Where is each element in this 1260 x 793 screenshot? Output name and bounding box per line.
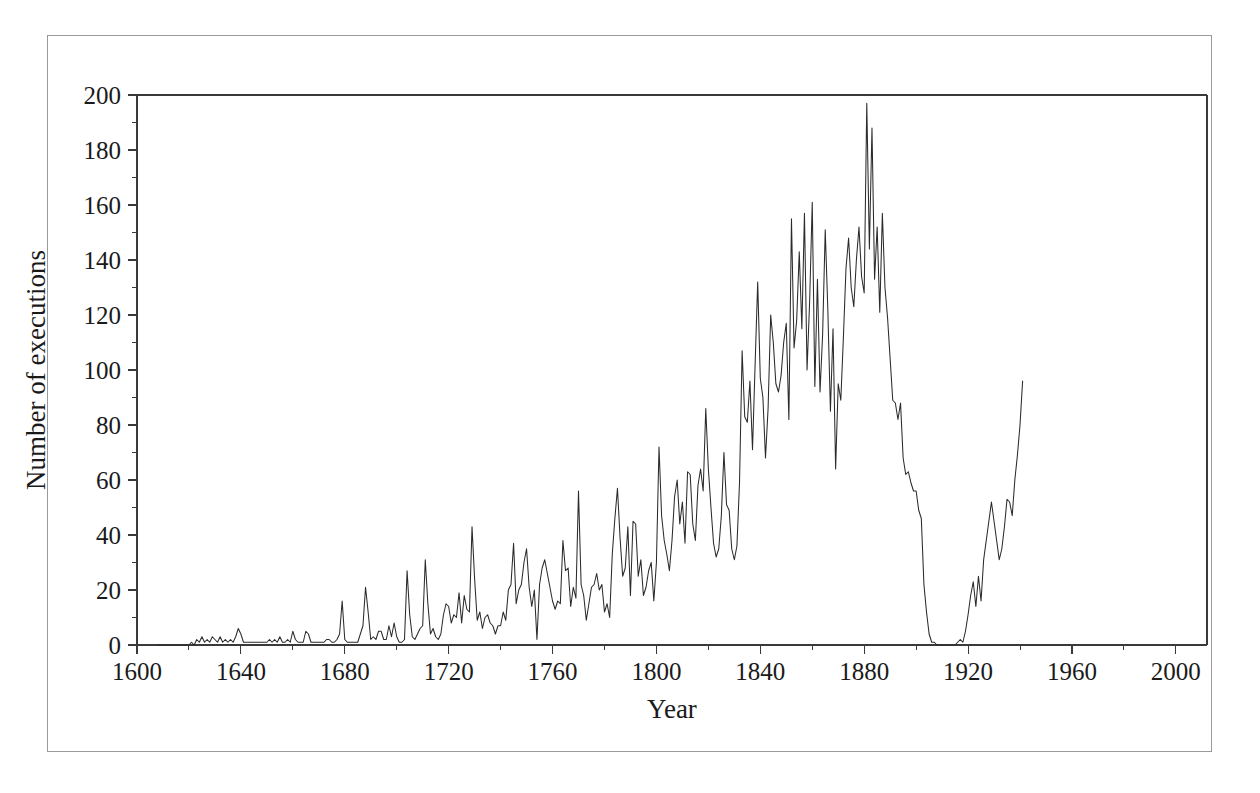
tick-labels-group: 0204060801001201401601802001600164016801…: [84, 82, 1201, 685]
y-tick-label: 20: [96, 577, 121, 604]
y-tick-label: 200: [84, 82, 122, 109]
x-tick-label: 1880: [839, 658, 889, 685]
x-tick-label: 1680: [320, 658, 370, 685]
x-tick-label: 1960: [1047, 658, 1097, 685]
x-tick-label: 1800: [631, 658, 681, 685]
y-tick-label: 120: [84, 302, 122, 329]
y-tick-label: 0: [109, 632, 122, 659]
y-tick-label: 180: [84, 137, 122, 164]
y-tick-label: 80: [96, 412, 121, 439]
y-axis-title: Number of executions: [21, 250, 51, 490]
x-tick-label: 1760: [528, 658, 578, 685]
x-tick-label: 1920: [943, 658, 993, 685]
y-tick-label: 100: [84, 357, 122, 384]
x-tick-label: 1840: [735, 658, 785, 685]
axis-group: [137, 95, 1207, 645]
y-tick-label: 160: [84, 192, 122, 219]
x-tick-label: 2000: [1151, 658, 1201, 685]
y-tick-label: 60: [96, 467, 121, 494]
y-tick-label: 140: [84, 247, 122, 274]
x-tick-label: 1600: [112, 658, 162, 685]
x-tick-label: 1720: [424, 658, 474, 685]
x-axis-title: Year: [647, 694, 697, 724]
executions-data-line: [158, 103, 1023, 645]
x-tick-label: 1640: [216, 658, 266, 685]
y-tick-label: 40: [96, 522, 121, 549]
executions-line-chart: 0204060801001201401601802001600164016801…: [0, 0, 1260, 793]
